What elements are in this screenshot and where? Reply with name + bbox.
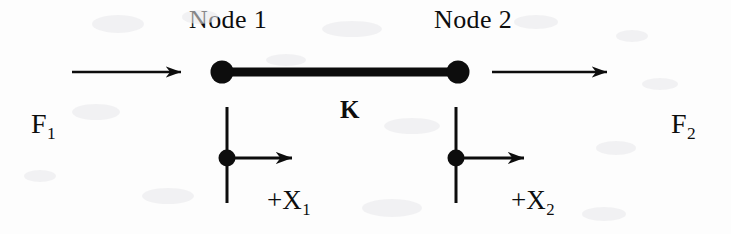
displacement1-base: +X xyxy=(267,185,302,215)
displacement1-label: +X1 xyxy=(267,187,311,214)
force1-subscript: 1 xyxy=(47,124,56,143)
node1-axis-dot-icon xyxy=(219,150,236,167)
node2-axis-dot-icon xyxy=(448,150,465,167)
force1-base: F xyxy=(31,108,47,139)
spring-element-diagram: Node 1 Node 2 K F1 F2 +X1 +X2 xyxy=(0,0,731,234)
diagram-canvas xyxy=(0,0,731,234)
force2-base: F xyxy=(671,108,687,139)
node2-dot-icon xyxy=(447,61,470,84)
force2-subscript: 2 xyxy=(687,124,696,143)
displacement2-subscript: 2 xyxy=(546,200,555,219)
force2-label: F2 xyxy=(671,110,696,138)
displacement2-base: +X xyxy=(511,185,546,215)
displacement2-label: +X2 xyxy=(511,187,555,214)
node1-label: Node 1 xyxy=(189,7,267,33)
displacement1-subscript: 1 xyxy=(302,200,311,219)
stiffness-label: K xyxy=(340,97,360,122)
node2-label: Node 2 xyxy=(434,7,512,33)
force1-label: F1 xyxy=(31,110,56,138)
node1-dot-icon xyxy=(211,61,234,84)
